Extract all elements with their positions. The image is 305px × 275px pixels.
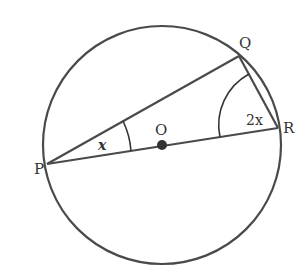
label-p: P [34,160,44,178]
angle-arc-r [219,74,249,137]
angle-label-x: x [97,137,107,153]
center-point-o [157,140,167,150]
angle-label-2x: 2x [246,112,263,128]
label-r: R [283,119,295,137]
label-q: Q [239,34,251,52]
chord-pq [47,56,239,164]
geometry-diagram: P Q R O x 2x [0,0,305,275]
label-o: O [155,121,167,139]
angle-arc-p [123,121,131,151]
